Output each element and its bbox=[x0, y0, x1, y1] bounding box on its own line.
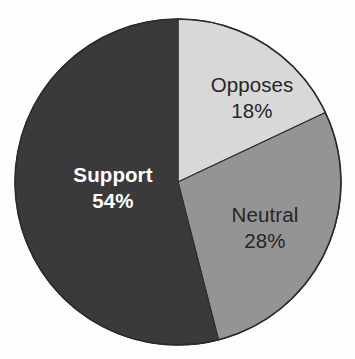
pie-slices-group bbox=[15, 19, 341, 345]
pie-value-support: 54% bbox=[92, 189, 133, 212]
pie-label-neutral: Neutral bbox=[232, 203, 299, 226]
pie-value-neutral: 28% bbox=[244, 229, 285, 252]
pie-chart: Opposes18%Neutral28%Support54% bbox=[0, 0, 355, 359]
pie-value-opposes: 18% bbox=[231, 99, 272, 122]
pie-chart-canvas: Opposes18%Neutral28%Support54% bbox=[0, 0, 355, 359]
pie-label-opposes: Opposes bbox=[211, 73, 294, 96]
pie-label-support: Support bbox=[73, 163, 152, 186]
